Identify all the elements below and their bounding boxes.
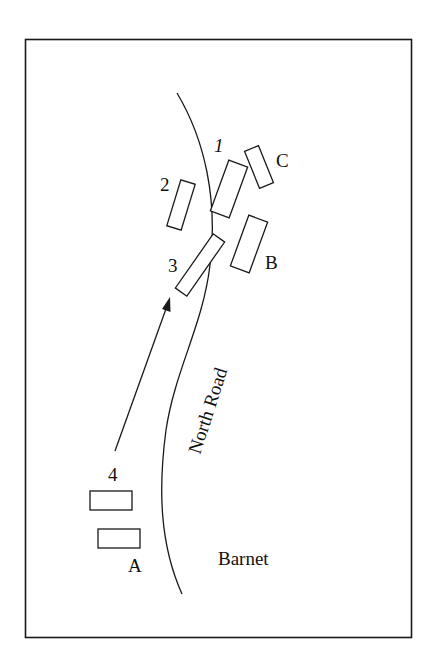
unit-b-label: B bbox=[265, 252, 278, 273]
unit-4-label: 4 bbox=[108, 464, 118, 485]
unit-4: 4 bbox=[90, 464, 132, 510]
unit-b: B bbox=[230, 215, 277, 273]
unit-3: 3 bbox=[168, 234, 225, 296]
battle-map: North Road Barnet 1 2 3 C B 4 A bbox=[0, 0, 435, 672]
arrow-shaft bbox=[115, 306, 167, 451]
unit-2-label: 2 bbox=[160, 174, 170, 195]
unit-2: 2 bbox=[160, 174, 195, 230]
unit-2-block bbox=[167, 180, 195, 230]
unit-a-label: A bbox=[128, 555, 142, 576]
unit-4-block bbox=[90, 491, 132, 510]
unit-a-block bbox=[98, 529, 140, 548]
arrow-head-icon bbox=[162, 297, 171, 312]
unit-1: 1 bbox=[210, 135, 247, 218]
road-label: North Road bbox=[184, 364, 232, 456]
unit-c-label: C bbox=[276, 150, 289, 171]
unit-a: A bbox=[98, 529, 142, 576]
unit-3-label: 3 bbox=[168, 255, 178, 276]
north-road-line bbox=[162, 93, 213, 594]
unit-3-block bbox=[175, 234, 224, 296]
advance-arrow bbox=[115, 297, 171, 451]
unit-c: C bbox=[245, 146, 289, 189]
place-label-barnet: Barnet bbox=[218, 548, 269, 569]
unit-1-block bbox=[210, 160, 247, 218]
unit-c-block bbox=[245, 146, 274, 189]
unit-b-block bbox=[230, 215, 267, 273]
unit-1-label: 1 bbox=[214, 135, 224, 156]
